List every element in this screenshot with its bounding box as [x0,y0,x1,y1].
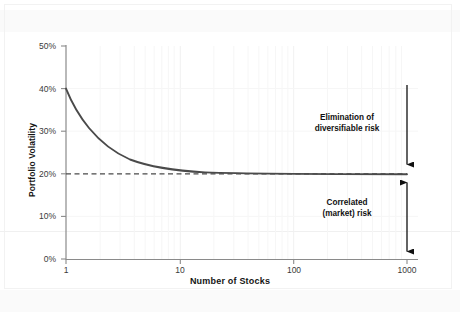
x-axis-ticks [66,260,407,265]
grid-vertical-major [180,46,293,259]
y-axis-title: Portfolio Volatility [27,100,37,220]
x-tick-label-10: 10 [160,265,200,275]
y-tick-label-40: 40% [22,84,56,94]
annotation-line-1: Elimination of [294,112,400,123]
y-tick-label-50: 50% [22,41,56,51]
annotation-elimination-diversifiable-risk: Elimination of diversifiable risk [294,112,400,134]
y-tick-label-0: 0% [22,254,56,264]
grid-vertical [100,46,401,259]
annotation-correlated-market-risk: Correlated (market) risk [294,197,400,219]
x-axis-title: Number of Stocks [0,276,460,286]
y-axis-ticks [61,46,66,259]
x-tick-label-1000: 1000 [387,265,427,275]
annotation-line-1: Correlated [294,197,400,208]
x-tick-label-1: 1 [46,265,86,275]
x-tick-label-100: 100 [274,265,314,275]
annotation-line-2: diversifiable risk [294,123,400,134]
chart-figure: 50% 40% 30% 20% 10% 0% 1 10 100 1000 Por… [0,0,460,316]
annotation-line-2: (market) risk [294,208,400,219]
